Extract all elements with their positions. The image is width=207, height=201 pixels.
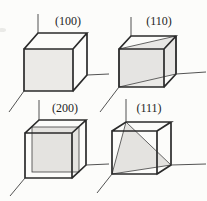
cube-100-x-axis-line [9, 91, 24, 112]
cube-111-triangle-plane [112, 122, 171, 174]
cube-111: (111) [97, 99, 206, 193]
cube-110-y-axis-line [176, 72, 206, 74]
cube-200-y-axis-line [86, 164, 109, 165]
crystal-planes-svg: (100) (110) (200) [0, 0, 207, 201]
cube-100-top-face [24, 33, 87, 49]
cube-111-label: (111) [136, 101, 161, 115]
cube-111-x-axis-line [97, 174, 112, 193]
cube-100-label: (100) [55, 14, 81, 28]
scan-artifact [0, 28, 6, 32]
cube-110: (110) [100, 14, 206, 112]
cube-100: (100) [9, 14, 109, 112]
cube-110-label: (110) [146, 14, 172, 28]
cube-100-y-axis-line [87, 74, 109, 75]
cube-200: (200) [10, 100, 109, 196]
cube-200-x-axis-line [10, 178, 25, 196]
cube-110-diagonal-plane [119, 36, 176, 87]
cube-111-y-axis-line [171, 164, 206, 165]
cube-100-front-face-plane [24, 49, 73, 91]
cube-200-label: (200) [52, 101, 78, 115]
cube-111-top-face [112, 122, 171, 131]
crystal-planes-figure: (100) (110) (200) [0, 0, 207, 201]
cube-110-x-axis-line [100, 87, 119, 112]
